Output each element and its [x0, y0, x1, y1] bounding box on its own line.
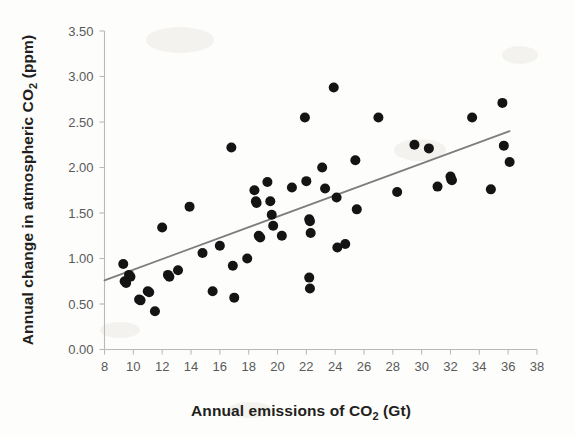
y-tick-label: 1.50 [68, 206, 93, 221]
data-point [350, 155, 360, 165]
x-tick-label: 14 [184, 359, 198, 374]
data-point [352, 204, 362, 214]
data-point [486, 184, 496, 194]
x-tick-label: 16 [213, 359, 227, 374]
data-point [215, 241, 225, 251]
y-tick-label: 0.50 [68, 297, 93, 312]
data-point [497, 98, 507, 108]
x-tick-label: 32 [443, 359, 457, 374]
data-point [329, 82, 339, 92]
data-point [424, 143, 434, 153]
data-point [262, 177, 272, 187]
data-point [305, 284, 315, 294]
x-tick-label: 18 [241, 359, 255, 374]
data-point [373, 112, 383, 122]
y-axis-ticks [100, 31, 105, 350]
scatter-chart: 0.000.501.001.502.002.503.003.50 8101214… [0, 0, 575, 437]
data-point [304, 273, 314, 283]
x-tick-label: 12 [155, 359, 169, 374]
x-tick-label: 30 [414, 359, 428, 374]
data-point [433, 182, 443, 192]
y-tick-label: 2.50 [68, 115, 93, 130]
data-point [301, 176, 311, 186]
x-tick-label: 24 [328, 359, 342, 374]
data-point [409, 140, 419, 150]
x-tick-label: 22 [299, 359, 313, 374]
data-point [185, 202, 195, 212]
data-point [447, 175, 457, 185]
data-point [305, 216, 315, 226]
data-point [173, 265, 183, 275]
data-point [125, 272, 135, 282]
data-point [267, 210, 277, 220]
data-point [467, 112, 477, 122]
trend-line [105, 131, 510, 280]
data-point [268, 221, 278, 231]
data-point [499, 141, 509, 151]
data-point [228, 261, 238, 271]
data-point [157, 223, 167, 233]
figure-container: 0.000.501.001.502.002.503.003.50 8101214… [0, 0, 575, 437]
x-tick-label: 34 [472, 359, 486, 374]
x-axis-ticks [105, 350, 538, 355]
data-point [306, 228, 316, 238]
y-tick-label: 0.00 [68, 342, 93, 357]
data-point [255, 233, 265, 243]
data-point [287, 183, 297, 193]
x-tick-label: 36 [501, 359, 515, 374]
x-tick-label: 8 [101, 359, 108, 374]
y-tick-label: 2.00 [68, 160, 93, 175]
data-point [340, 239, 350, 249]
data-point [505, 157, 515, 167]
y-tick-label: 3.50 [68, 24, 93, 39]
x-tick-label: 38 [530, 359, 544, 374]
data-point [317, 163, 327, 173]
y-axis-tick-labels: 0.000.501.001.502.002.503.003.50 [68, 24, 93, 358]
data-point [252, 198, 262, 208]
data-point [320, 183, 330, 193]
data-point [332, 193, 342, 203]
data-point [136, 295, 146, 305]
data-point [249, 185, 259, 195]
x-tick-label: 20 [270, 359, 284, 374]
data-point [229, 293, 239, 303]
x-tick-label: 28 [386, 359, 400, 374]
y-tick-label: 3.00 [68, 69, 93, 84]
data-point [144, 287, 154, 297]
x-tick-label: 10 [126, 359, 140, 374]
data-point [208, 286, 218, 296]
data-point-group [118, 82, 514, 316]
x-tick-label: 26 [357, 359, 371, 374]
y-axis-title: Annual change in atmospheric CO2 (ppm) [19, 35, 39, 345]
data-point [164, 272, 174, 282]
x-axis-tick-labels: 8101214161820222426283032343638 [101, 359, 544, 374]
x-axis-title: Annual emissions of CO2 (Gt) [191, 402, 411, 422]
data-point [242, 254, 252, 264]
data-point [300, 112, 310, 122]
data-point [198, 248, 208, 258]
data-point [392, 187, 402, 197]
y-tick-label: 1.00 [68, 251, 93, 266]
data-point [277, 231, 287, 241]
data-point [265, 196, 275, 206]
data-point [226, 142, 236, 152]
data-point [118, 259, 128, 269]
data-point [150, 306, 160, 316]
